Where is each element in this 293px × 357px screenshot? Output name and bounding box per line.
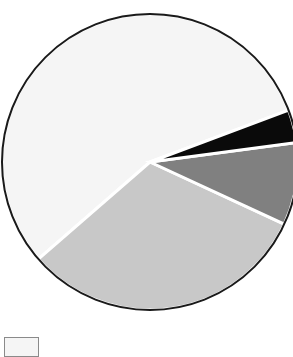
- legend-swatch-1: [4, 337, 39, 357]
- pie-chart-svg: [0, 0, 293, 357]
- pie-chart-figure: [0, 0, 293, 357]
- chart-legend: [4, 337, 46, 357]
